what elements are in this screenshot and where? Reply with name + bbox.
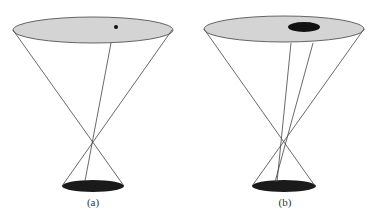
ray-b-1 (252, 29, 364, 186)
panel-a-label: (a) (87, 196, 99, 208)
lower-disk-b (252, 180, 316, 192)
upper-disk-a (13, 17, 173, 43)
panel-a (13, 17, 173, 192)
ray-b-3 (275, 43, 313, 182)
ray-b-2 (277, 43, 291, 182)
upper-disk-b (204, 16, 364, 42)
lower-disk-a (62, 180, 124, 192)
panel-b (204, 16, 364, 192)
ray-a-1 (62, 30, 172, 186)
ray-a-2 (85, 43, 111, 181)
panel-b-label: (b) (279, 196, 292, 208)
extended-source-b (288, 22, 320, 32)
point-source-a (114, 25, 118, 29)
projection-diagram (0, 0, 370, 219)
ray-b-0 (204, 29, 315, 186)
ray-a-0 (13, 30, 124, 186)
